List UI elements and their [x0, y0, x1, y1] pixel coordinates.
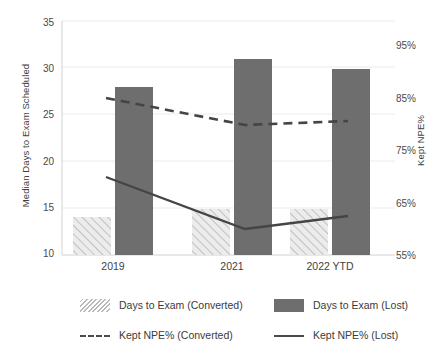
- solid-swatch-icon: [274, 299, 304, 312]
- bar-converted-2022-ytd: [290, 209, 328, 255]
- legend-label-days-to-exam-converted: Days to Exam (Converted): [119, 299, 243, 311]
- legend-item-kept-npe-lost[interactable]: Kept NPE% (Lost): [274, 322, 398, 348]
- legend-row-bars: Days to Exam (Converted) Days to Exam (L…: [62, 292, 432, 318]
- solid-line-icon: [274, 329, 304, 342]
- chart-legend: Days to Exam (Converted) Days to Exam (L…: [62, 292, 432, 354]
- legend-item-days-to-exam-lost[interactable]: Days to Exam (Lost): [274, 292, 408, 318]
- legend-label-kept-npe-converted: Kept NPE% (Converted): [119, 329, 233, 341]
- bar-lost-2019: [115, 87, 153, 255]
- legend-row-lines: Kept NPE% (Converted) Kept NPE% (Lost): [62, 322, 432, 348]
- bar-converted-2019: [73, 217, 111, 255]
- legend-item-days-to-exam-converted[interactable]: Days to Exam (Converted): [80, 292, 243, 318]
- bar-series-days-to-exam-lost: [115, 59, 370, 255]
- dashed-line-icon: [80, 329, 110, 342]
- chart-container: Median Days to Exam Scheduled Kept NPE% …: [0, 0, 448, 359]
- legend-item-kept-npe-converted[interactable]: Kept NPE% (Converted): [80, 322, 233, 348]
- legend-label-days-to-exam-lost: Days to Exam (Lost): [313, 299, 408, 311]
- legend-label-kept-npe-lost: Kept NPE% (Lost): [313, 329, 398, 341]
- bar-lost-2022-ytd: [332, 69, 370, 255]
- bar-series-days-to-exam-converted: [73, 209, 328, 255]
- hatch-swatch-icon: [80, 299, 110, 312]
